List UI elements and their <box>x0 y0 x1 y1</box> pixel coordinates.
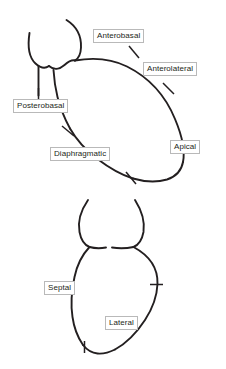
top-border-right-lower <box>112 247 134 248</box>
intervessel-notch-upper <box>49 60 75 68</box>
label-anterolateral: Anterolateral <box>143 62 197 76</box>
septal-border-lower <box>71 247 89 345</box>
right-vessel-horn-upper <box>67 20 82 61</box>
label-posterobasal: Posterobasal <box>13 99 68 113</box>
tick-anterobasal-anterolateral <box>129 46 139 58</box>
top-border-left-lower <box>90 247 107 248</box>
right-vessel-horn-lower <box>134 200 144 247</box>
lower-panel-outline <box>71 200 163 354</box>
label-septal: Septal <box>44 281 75 295</box>
heart-outline-drawing <box>0 0 226 369</box>
label-diaphragmatic: Diaphragmatic <box>50 147 110 161</box>
heart-segment-diagram: Anterobasal Anterolateral Apical Diaphra… <box>0 0 226 369</box>
left-vessel-horn-lower <box>79 200 90 247</box>
left-vessel-horn-upper <box>29 33 49 68</box>
apical-border-upper <box>133 162 183 181</box>
apex-border-lower <box>83 345 115 354</box>
tick-anterolateral-apical <box>163 83 174 94</box>
label-lateral: Lateral <box>105 316 138 330</box>
lateral-border-lower <box>115 247 158 350</box>
label-anterobasal: Anterobasal <box>93 29 144 43</box>
label-apical: Apical <box>170 140 200 154</box>
